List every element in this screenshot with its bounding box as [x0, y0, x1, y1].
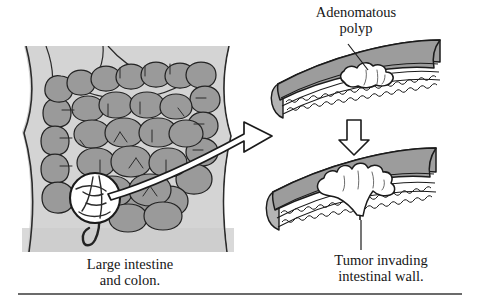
- slab-bottom-panel: [266, 148, 436, 250]
- small-intestine-loop-2: [99, 92, 133, 118]
- small-intestine-loop-6: [105, 118, 143, 147]
- caption-tumor-invading: Tumor invading intestinal wall.: [296, 252, 466, 284]
- colon-flexure-right: [186, 62, 216, 88]
- colon-transverse-1: [67, 70, 95, 95]
- caption-left-line1: Large intestine: [87, 256, 173, 272]
- label-polyp-line1: Adenomatous: [316, 4, 397, 20]
- progression-arrow-shape: [339, 120, 369, 155]
- caption-right-line1: Tumor invading: [334, 252, 427, 268]
- label-polyp-line2: polyp: [272, 20, 440, 36]
- small-intestine-loop-4: [160, 94, 192, 119]
- colon-ascending-2: [41, 126, 69, 155]
- invasive-tumor: [317, 163, 394, 216]
- small-intestine-loop-3: [130, 92, 164, 118]
- torso-panel: [22, 46, 234, 252]
- small-intestine-loop-10: [111, 146, 151, 177]
- caption-large-intestine: Large intestine and colon.: [40, 256, 220, 288]
- progression-arrow: [339, 120, 369, 155]
- caption-right-line2: intestinal wall.: [296, 268, 466, 284]
- small-intestine-loop-15: [144, 202, 182, 230]
- caption-left-line2: and colon.: [40, 272, 220, 288]
- figure-root: Adenomatous polyp Large intestine and co…: [0, 0, 479, 302]
- slab-top-panel: [271, 40, 440, 118]
- colon-descending-1: [190, 86, 220, 113]
- label-adenomatous-polyp: Adenomatous polyp: [272, 4, 440, 36]
- colon-ascending-3: [41, 154, 69, 183]
